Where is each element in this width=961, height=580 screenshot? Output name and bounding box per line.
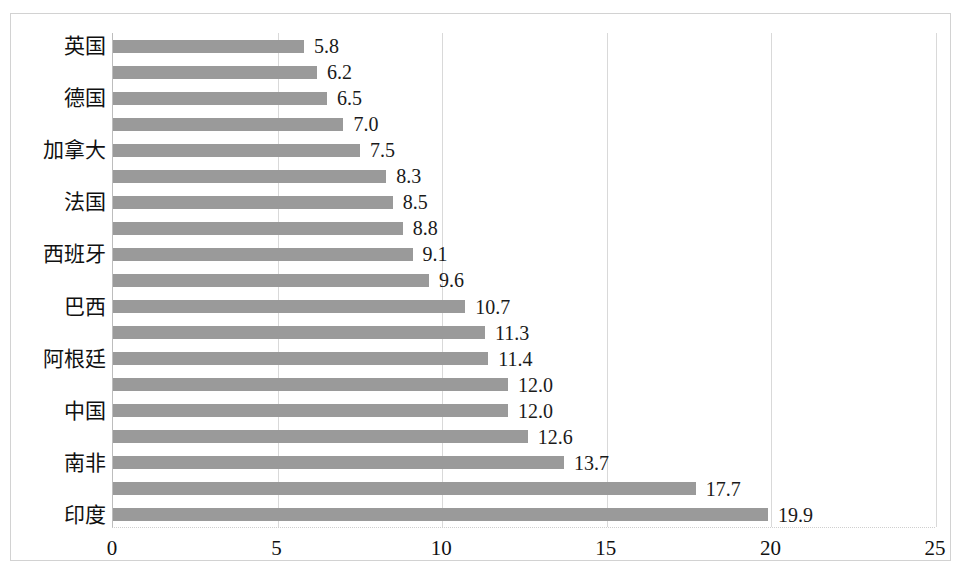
plot-area: 5.86.26.57.07.58.38.58.89.19.610.711.311…: [112, 33, 935, 528]
bar-value-label: 7.0: [353, 111, 378, 137]
bar-value-label: 12.0: [518, 372, 553, 398]
bar-row: 12.6: [113, 424, 935, 450]
bar-row: 7.5: [113, 137, 935, 163]
bar-value-label: 6.2: [327, 59, 352, 85]
bar-value-label: 9.1: [423, 241, 448, 267]
bar: [113, 300, 465, 313]
category-axis: 英国德国加拿大法国西班牙巴西阿根廷中国南非印度: [0, 33, 112, 528]
bar-value-label: 7.5: [370, 137, 395, 163]
x-tick-label: 20: [760, 533, 781, 563]
bar-row: 12.0: [113, 398, 935, 424]
x-axis-tick-labels: 0510152025: [112, 533, 935, 573]
category-label: 法国: [2, 189, 106, 215]
bar: [113, 40, 304, 53]
bar-row: 13.7: [113, 450, 935, 476]
bar: [113, 482, 696, 495]
bar-row: 9.1: [113, 241, 935, 267]
bar-row: 19.9: [113, 502, 935, 528]
category-label: 阿根廷: [2, 346, 106, 372]
bar-row: 11.4: [113, 346, 935, 372]
bar-value-label: 8.5: [403, 189, 428, 215]
bar: [113, 118, 343, 131]
bar-row: 8.3: [113, 163, 935, 189]
bar: [113, 508, 768, 521]
bar-value-label: 10.7: [475, 294, 510, 320]
category-label: 南非: [2, 450, 106, 476]
bar-row: 10.7: [113, 294, 935, 320]
category-label: 德国: [2, 85, 106, 111]
bar: [113, 404, 508, 417]
bar: [113, 248, 413, 261]
bar-row: 8.8: [113, 215, 935, 241]
bar-value-label: 5.8: [314, 33, 339, 59]
bar: [113, 196, 393, 209]
x-tick-label: 25: [925, 533, 946, 563]
bar: [113, 456, 564, 469]
bar-value-label: 13.7: [574, 450, 609, 476]
bar: [113, 378, 508, 391]
bar-value-label: 17.7: [706, 476, 741, 502]
bar-row: 6.5: [113, 85, 935, 111]
category-label: 西班牙: [2, 241, 106, 267]
gridline-25: [936, 33, 937, 527]
bar-row: 8.5: [113, 189, 935, 215]
bar-row: 7.0: [113, 111, 935, 137]
bar-value-label: 9.6: [439, 267, 464, 293]
category-label: 中国: [2, 398, 106, 424]
bar-row: 5.8: [113, 33, 935, 59]
bar-value-label: 6.5: [337, 85, 362, 111]
category-label: 加拿大: [2, 137, 106, 163]
bar-value-label: 12.6: [538, 424, 573, 450]
category-label: 印度: [2, 502, 106, 528]
bar-value-label: 11.4: [498, 346, 532, 372]
x-tick-label: 10: [431, 533, 452, 563]
bar: [113, 222, 403, 235]
bar: [113, 274, 429, 287]
bar: [113, 92, 327, 105]
bar-value-label: 11.3: [495, 320, 529, 346]
x-tick-label: 5: [271, 533, 282, 563]
bar-row: 6.2: [113, 59, 935, 85]
bar-row: 17.7: [113, 476, 935, 502]
category-label: 巴西: [2, 294, 106, 320]
category-label: 英国: [2, 33, 106, 59]
bar: [113, 352, 488, 365]
bar-chart-figure: 英国德国加拿大法国西班牙巴西阿根廷中国南非印度 5.86.26.57.07.58…: [0, 0, 961, 580]
bar: [113, 430, 528, 443]
bar-row: 11.3: [113, 320, 935, 346]
bar: [113, 326, 485, 339]
x-tick-label: 0: [107, 533, 118, 563]
bar-row: 12.0: [113, 372, 935, 398]
bar-row: 9.6: [113, 267, 935, 293]
bar-value-label: 12.0: [518, 398, 553, 424]
bar: [113, 144, 360, 157]
bar-value-label: 8.8: [413, 215, 438, 241]
bar: [113, 66, 317, 79]
bar: [113, 170, 386, 183]
bar-value-label: 8.3: [396, 163, 421, 189]
x-tick-label: 15: [595, 533, 616, 563]
bar-value-label: 19.9: [778, 502, 813, 528]
